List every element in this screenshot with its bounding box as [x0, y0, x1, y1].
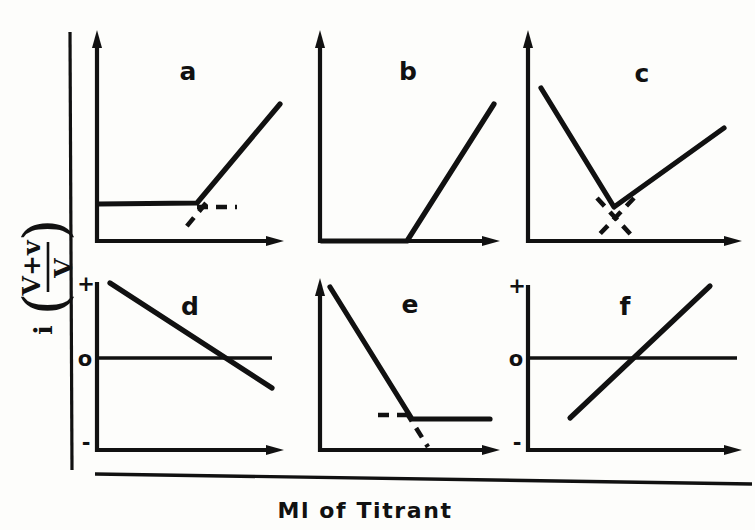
panel-b: b — [315, 30, 500, 246]
y-axis-denominator: V — [49, 258, 78, 279]
y-axis-label-group: i ( V+v V ) — [11, 219, 79, 335]
panel-f-tick-minus: - — [513, 431, 522, 455]
panel-d-letter: d — [181, 292, 199, 321]
panel-e-x-axis-arrowhead — [482, 445, 500, 455]
shared-y-axis-spine — [70, 32, 72, 470]
panel-c-y-axis-arrowhead — [523, 30, 533, 48]
panel-f-tick-zero: o — [509, 347, 523, 371]
panel-a-curve — [99, 104, 280, 204]
panel-a-letter: a — [180, 57, 197, 86]
panel-d-x-axis-arrowhead — [266, 445, 284, 455]
panel-b-letter: b — [399, 57, 417, 86]
panel-e: e — [315, 278, 500, 455]
panel-f-tick-plus: + — [508, 274, 526, 298]
panel-a-dashed-branch-extension — [182, 203, 206, 232]
panel-b-y-axis-arrowhead — [315, 30, 325, 48]
panel-e-letter: e — [402, 290, 419, 319]
y-axis-numerator: V+v — [17, 239, 46, 296]
amperometric-titration-figure: a b c + — [0, 0, 755, 530]
panel-f: + o - f — [508, 274, 742, 455]
panel-a-x-axis-arrowhead — [266, 236, 284, 246]
panel-e-y-axis-arrowhead — [315, 278, 325, 296]
panel-f-x-axis-arrowhead — [724, 445, 742, 455]
panel-a-y-axis-arrowhead — [92, 30, 102, 48]
panel-a: a — [92, 30, 284, 246]
panel-d-tick-minus: - — [82, 431, 91, 455]
figure-canvas: a b c + — [0, 0, 755, 530]
panel-c-curve — [541, 88, 724, 207]
panel-d-tick-plus: + — [77, 272, 95, 296]
panel-b-x-axis-arrowhead — [482, 236, 500, 246]
shared-x-axis-baseline — [95, 474, 752, 484]
x-axis-caption: Ml of Titrant — [277, 498, 452, 523]
panel-c-x-axis-arrowhead — [724, 236, 742, 246]
y-axis-current-symbol: i — [29, 325, 58, 335]
panel-f-curve — [570, 286, 710, 418]
panel-d-tick-zero: o — [78, 347, 92, 371]
panel-f-letter: f — [620, 292, 632, 321]
panel-c: c — [523, 30, 742, 246]
y-axis-paren-close: ) — [11, 219, 79, 242]
panel-b-curve — [322, 104, 494, 241]
panel-d: + o - d — [77, 272, 284, 455]
panel-c-letter: c — [635, 59, 650, 88]
